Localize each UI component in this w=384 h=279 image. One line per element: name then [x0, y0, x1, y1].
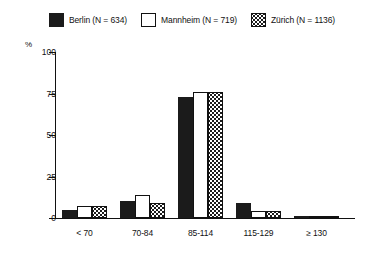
bar-mannheim[interactable] [77, 206, 92, 218]
y-tick-label-25: 25 [30, 172, 56, 182]
x-tick-label: 115-129 [226, 228, 291, 238]
bar-group [294, 52, 339, 218]
bar-berlin[interactable] [120, 201, 135, 218]
bar-mannheim[interactable] [309, 216, 324, 218]
y-tick-100: 100 [0, 52, 56, 53]
x-tick-label: 70-84 [110, 228, 175, 238]
bar-mannheim[interactable] [135, 195, 150, 218]
bar-zurich[interactable] [92, 206, 107, 218]
y-tick-label-75: 75 [30, 89, 56, 99]
bar-berlin[interactable] [236, 203, 251, 218]
bar-mannheim[interactable] [251, 211, 266, 218]
y-tick-label-50: 50 [30, 130, 56, 140]
bar-berlin[interactable] [62, 210, 77, 218]
y-tick-25: 25 [0, 177, 56, 178]
bar-mannheim[interactable] [193, 92, 208, 218]
x-tick-label: 85-114 [168, 228, 233, 238]
bar-group [120, 52, 165, 218]
bar-zurich[interactable] [266, 211, 281, 218]
y-tick-0: 0 [0, 218, 56, 219]
y-tick-label-0: 0 [30, 213, 56, 223]
bar-chart: % 0255075100 < 7070-8485-114115-129≥ 130 [0, 0, 384, 279]
x-tick-label: ≥ 130 [284, 228, 349, 238]
y-tick-label-100: 100 [30, 47, 56, 57]
bar-zurich[interactable] [324, 216, 339, 218]
bar-zurich[interactable] [208, 92, 223, 218]
bar-group [178, 52, 223, 218]
bar-berlin[interactable] [294, 216, 309, 218]
y-tick-75: 75 [0, 94, 56, 95]
bar-group [62, 52, 107, 218]
x-axis-line [55, 218, 355, 219]
x-tick-label: < 70 [52, 228, 117, 238]
y-tick-50: 50 [0, 135, 56, 136]
bar-group [236, 52, 281, 218]
bar-groups [56, 52, 355, 218]
bar-zurich[interactable] [150, 203, 165, 218]
bar-berlin[interactable] [178, 97, 193, 218]
